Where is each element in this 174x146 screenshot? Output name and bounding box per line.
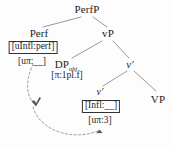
dp-obj-phi-text: [π:1pl.f] [51,70,82,80]
node-v-small-prime: ′ [101,86,103,97]
node-v-bar-prime: ′ [131,58,134,70]
node-perf: Perf [30,28,49,39]
v-uphi-text: [uπ:3] [88,115,111,125]
tree-lines-svg [0,0,174,146]
node-vp-complement-label: VP [151,93,165,105]
node-dp-obj-label: DP [55,58,69,70]
node-perfp-label: PerfP [75,3,100,15]
infl-valuation-arrow [28,64,35,105]
branch-perfp-to-perf [43,17,81,27]
node-vp-matrix-label: vP [102,27,114,39]
perf-uinfl-feature-text: [uInfl:perf] [11,42,56,52]
branch-vp-to-vbar [113,41,129,58]
v-infl-feature-text: [Infl:__] [84,101,118,111]
v-uphi-feature: [uπ:3] [88,116,111,126]
v-infl-feature-box: [Infl:__] [82,100,120,113]
node-v-small: v′ [97,87,104,97]
perf-unvalued-phi-text: [uπ:__] [18,56,46,66]
syntax-tree-figure: PerfP Perf vP [uInfl:perf] [uπ:__] DPobj… [0,0,174,146]
branch-vbar-to-v [103,71,127,86]
node-vp-complement: VP [151,94,165,105]
node-v-bar: v′ [126,59,134,70]
branch-vbar-to-vp-small [134,71,156,91]
perf-unvalued-phi-feature: [uπ:__] [18,57,46,67]
branch-vp-to-dpobj [72,41,102,58]
node-perf-label: Perf [30,27,49,39]
node-vp-matrix: vP [102,28,114,39]
perf-uinfl-feature-box: [uInfl:perf] [9,41,58,54]
dp-obj-phi-feature: [π:1pl.f] [51,71,82,81]
node-perfp: PerfP [75,4,100,15]
branch-perfp-to-vp [93,17,107,27]
infl-arrowhead-icon [32,97,42,107]
